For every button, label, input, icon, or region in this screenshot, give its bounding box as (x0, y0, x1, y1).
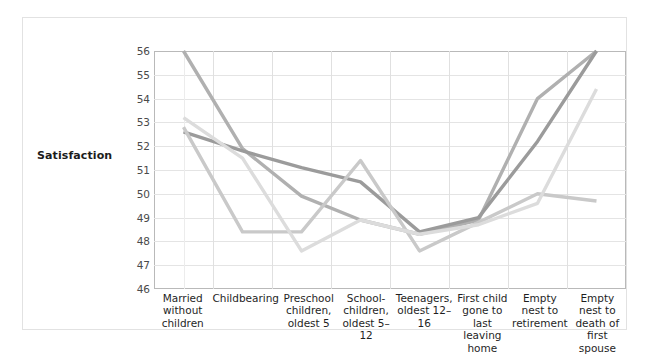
y-tick-label: 54 (116, 93, 150, 105)
y-tick-label: 56 (116, 45, 150, 57)
plot-area (154, 51, 626, 289)
y-tick-label: 49 (116, 212, 150, 224)
x-category-label: Married without children (154, 292, 211, 358)
y-tick-label: 48 (116, 235, 150, 247)
y-tick-label: 53 (116, 116, 150, 128)
y-tick-label: 46 (116, 283, 150, 295)
y-tick-label: 52 (116, 140, 150, 152)
y-tick-label: 50 (116, 188, 150, 200)
line-series-series_4 (184, 89, 597, 251)
y-axis-ticks: 5655545352515049484746 (112, 51, 150, 289)
chart-figure: Satisfaction 5655545352515049484746 Marr… (22, 17, 627, 330)
y-tick-label: 55 (116, 69, 150, 81)
x-category-label: School-children, oldest 5–12 (337, 292, 394, 358)
x-category-label: Empty nest to retirement (511, 292, 569, 358)
y-tick-label: 51 (116, 164, 150, 176)
x-category-label: Empty nest to death of first spouse (569, 292, 626, 358)
x-axis-labels: Married without childrenChildbearingPres… (154, 292, 626, 358)
x-category-label: Teenagers, oldest 12–16 (395, 292, 454, 358)
x-category-label: Preschool children, oldest 5 (280, 292, 337, 358)
x-category-label: Childbearing (211, 292, 280, 358)
line-series-group (154, 51, 626, 289)
y-axis-label: Satisfaction (37, 149, 123, 162)
x-category-label: First child gone to last leaving home (454, 292, 511, 358)
y-tick-label: 47 (116, 259, 150, 271)
